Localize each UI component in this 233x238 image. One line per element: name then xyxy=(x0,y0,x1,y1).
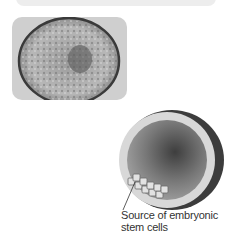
caption-line-2: stem cells xyxy=(121,221,218,233)
blastocyst-diagram xyxy=(105,110,233,214)
stem-cell-caption: Source of embryonic stem cells xyxy=(121,209,218,233)
top-panel xyxy=(16,0,216,6)
blastocyst-photo xyxy=(12,17,127,100)
caption-line-1: Source of embryonic xyxy=(121,209,218,221)
